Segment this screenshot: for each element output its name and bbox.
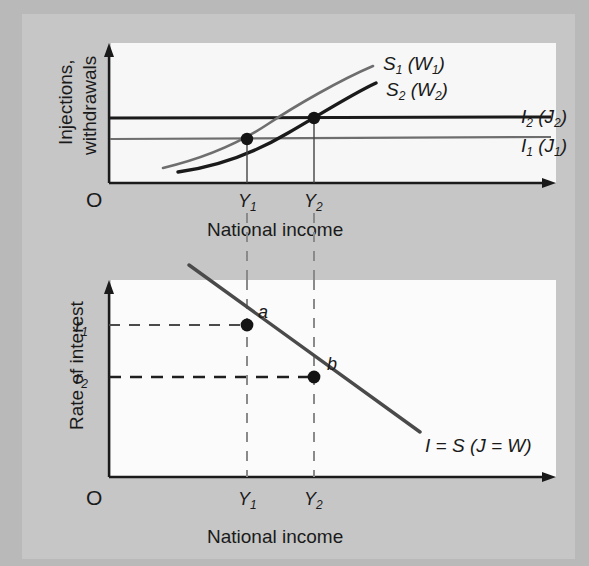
bottom-chart-origin-label: O	[86, 486, 102, 509]
bottom-chart-point-a	[241, 319, 254, 332]
top-chart-point-equilibrium-1	[241, 133, 253, 145]
bottom-chart-point-b	[308, 371, 321, 384]
curve-I2	[110, 117, 551, 118]
curve-label-IS: I = S (J = W)	[425, 435, 532, 456]
economics-diagram-figure: S1 (W1) S2 (W2) I2 (J2) I1 (J1) Injectio…	[0, 0, 589, 566]
top-chart-y-axis-label-line1: Injections,	[55, 59, 76, 145]
top-chart-y-axis-label-line2: withdrawals	[79, 56, 100, 156]
bottom-chart-point-label-a: a	[258, 302, 268, 322]
bottom-chart-x-axis-label: National income	[207, 526, 343, 547]
top-chart-x-axis-label: National income	[207, 219, 343, 240]
top-chart-plot-area	[111, 43, 556, 183]
top-chart-origin-label: O	[86, 188, 102, 211]
bottom-chart-point-label-b: b	[327, 354, 337, 374]
top-chart-point-equilibrium-2	[308, 112, 320, 124]
